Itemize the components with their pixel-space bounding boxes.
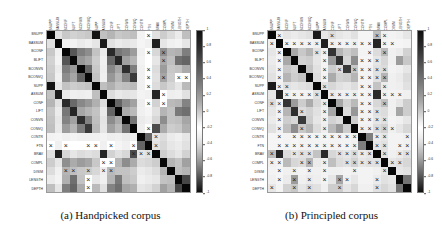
heatmap-cell[interactable]: × bbox=[268, 184, 276, 192]
heatmap-cell[interactable] bbox=[268, 107, 276, 115]
heatmap-cell[interactable] bbox=[313, 56, 321, 64]
heatmap-cell[interactable]: × bbox=[313, 48, 321, 56]
heatmap-cell[interactable]: × bbox=[306, 175, 314, 183]
heatmap-cell[interactable] bbox=[403, 90, 411, 98]
heatmap-cell[interactable] bbox=[62, 184, 70, 192]
heatmap-cell[interactable] bbox=[268, 90, 276, 98]
heatmap-cell[interactable] bbox=[47, 158, 55, 166]
heatmap-cell[interactable] bbox=[55, 133, 63, 141]
heatmap-cell[interactable] bbox=[115, 56, 123, 64]
heatmap-cell[interactable]: × bbox=[291, 141, 299, 149]
heatmap-cell[interactable] bbox=[152, 167, 160, 175]
heatmap-cell[interactable] bbox=[328, 82, 336, 90]
heatmap-cell[interactable]: × bbox=[358, 90, 366, 98]
heatmap-cell[interactable] bbox=[115, 124, 123, 132]
heatmap-cell[interactable] bbox=[351, 124, 359, 132]
heatmap-cell[interactable]: × bbox=[283, 141, 291, 149]
heatmap-cell[interactable] bbox=[55, 175, 63, 183]
heatmap-cell[interactable] bbox=[77, 99, 85, 107]
heatmap-cell[interactable]: × bbox=[306, 90, 314, 98]
heatmap-cell[interactable]: × bbox=[403, 150, 411, 158]
heatmap-cell[interactable]: × bbox=[70, 167, 78, 175]
heatmap-cell[interactable] bbox=[55, 39, 63, 47]
heatmap-cell[interactable]: × bbox=[373, 56, 381, 64]
heatmap-cell[interactable] bbox=[137, 39, 145, 47]
heatmap-cell[interactable] bbox=[403, 31, 411, 39]
heatmap-cell[interactable] bbox=[137, 167, 145, 175]
heatmap-cell[interactable] bbox=[70, 158, 78, 166]
heatmap-cell[interactable] bbox=[107, 82, 115, 90]
heatmap-cell[interactable] bbox=[313, 175, 321, 183]
heatmap-cell[interactable] bbox=[358, 141, 366, 149]
heatmap-cell[interactable]: × bbox=[381, 48, 389, 56]
heatmap-cell[interactable] bbox=[388, 150, 396, 158]
heatmap-cell[interactable] bbox=[313, 167, 321, 175]
heatmap-cell[interactable]: × bbox=[381, 90, 389, 98]
heatmap-cell[interactable] bbox=[47, 133, 55, 141]
heatmap-cell[interactable] bbox=[291, 82, 299, 90]
heatmap-cell[interactable] bbox=[351, 99, 359, 107]
heatmap-cell[interactable] bbox=[145, 56, 153, 64]
heatmap-cell[interactable]: × bbox=[291, 133, 299, 141]
heatmap-cell[interactable] bbox=[137, 65, 145, 73]
heatmap-cell[interactable] bbox=[388, 141, 396, 149]
heatmap-cell[interactable] bbox=[182, 90, 190, 98]
heatmap-cell[interactable]: × bbox=[268, 39, 276, 47]
heatmap-cell[interactable] bbox=[328, 99, 336, 107]
heatmap-cell[interactable]: × bbox=[358, 65, 366, 73]
heatmap-cell[interactable]: × bbox=[85, 184, 93, 192]
heatmap-cell[interactable] bbox=[343, 167, 351, 175]
heatmap-cell[interactable] bbox=[291, 56, 299, 64]
heatmap-cell[interactable] bbox=[100, 107, 108, 115]
heatmap-cell[interactable] bbox=[351, 82, 359, 90]
heatmap-cell[interactable]: × bbox=[381, 141, 389, 149]
heatmap-cell[interactable] bbox=[152, 82, 160, 90]
heatmap-cell[interactable]: × bbox=[343, 175, 351, 183]
heatmap-cell[interactable] bbox=[388, 82, 396, 90]
heatmap-cell[interactable] bbox=[291, 48, 299, 56]
heatmap-cell[interactable] bbox=[313, 116, 321, 124]
heatmap-cell[interactable]: × bbox=[276, 56, 284, 64]
heatmap-cell[interactable] bbox=[85, 90, 93, 98]
heatmap-cell[interactable]: × bbox=[366, 48, 374, 56]
heatmap-cell[interactable]: × bbox=[336, 90, 344, 98]
heatmap-cell[interactable] bbox=[298, 99, 306, 107]
heatmap-cell[interactable] bbox=[115, 73, 123, 81]
heatmap-cell[interactable] bbox=[77, 116, 85, 124]
heatmap-cell[interactable] bbox=[313, 99, 321, 107]
heatmap-cell[interactable] bbox=[107, 133, 115, 141]
heatmap-cell[interactable] bbox=[175, 116, 183, 124]
heatmap-cell[interactable] bbox=[115, 184, 123, 192]
heatmap-cell[interactable] bbox=[92, 107, 100, 115]
heatmap-cell[interactable] bbox=[115, 116, 123, 124]
heatmap-cell[interactable]: × bbox=[62, 167, 70, 175]
heatmap-cell[interactable] bbox=[130, 133, 138, 141]
heatmap-cell[interactable] bbox=[62, 73, 70, 81]
heatmap-cell[interactable]: × bbox=[276, 99, 284, 107]
heatmap-cell[interactable] bbox=[137, 99, 145, 107]
heatmap-cell[interactable] bbox=[100, 116, 108, 124]
heatmap-cell[interactable]: × bbox=[283, 90, 291, 98]
heatmap-cell[interactable]: × bbox=[381, 167, 389, 175]
heatmap-cell[interactable] bbox=[291, 73, 299, 81]
heatmap-cell[interactable] bbox=[283, 184, 291, 192]
heatmap-cell[interactable] bbox=[182, 107, 190, 115]
heatmap-cell[interactable] bbox=[92, 82, 100, 90]
heatmap-cell[interactable]: × bbox=[381, 124, 389, 132]
heatmap-cell[interactable] bbox=[167, 158, 175, 166]
heatmap-cell[interactable] bbox=[100, 141, 108, 149]
heatmap-cell[interactable]: × bbox=[381, 116, 389, 124]
heatmap-cell[interactable] bbox=[306, 73, 314, 81]
heatmap-cell[interactable]: × bbox=[366, 116, 374, 124]
heatmap-cell[interactable]: × bbox=[366, 99, 374, 107]
heatmap-cell[interactable] bbox=[343, 107, 351, 115]
heatmap-cell[interactable]: × bbox=[283, 39, 291, 47]
heatmap-cell[interactable] bbox=[313, 73, 321, 81]
heatmap-cell[interactable] bbox=[336, 73, 344, 81]
heatmap-cell[interactable] bbox=[298, 73, 306, 81]
heatmap-cell[interactable] bbox=[137, 158, 145, 166]
heatmap-cell[interactable] bbox=[182, 175, 190, 183]
heatmap-cell[interactable]: × bbox=[152, 133, 160, 141]
heatmap-cell[interactable] bbox=[306, 56, 314, 64]
heatmap-cell[interactable]: × bbox=[358, 107, 366, 115]
